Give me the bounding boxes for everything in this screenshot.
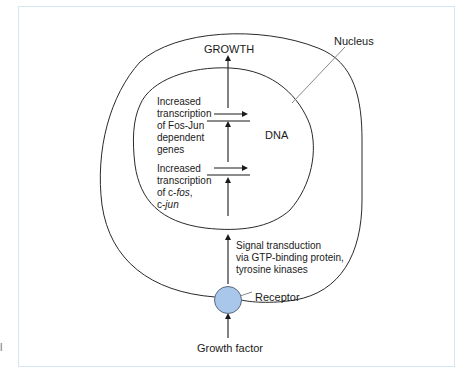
text-fragment: , (190, 187, 193, 198)
growth-factor-label: Growth factor (197, 342, 263, 354)
cfos-cjun-transcription-label: Increased transcription of c-fos, c-jun (157, 163, 211, 211)
signal-transduction-label: Signal transduction via GTP-binding prot… (236, 240, 344, 276)
text-line: Increased (157, 163, 211, 175)
text-line: dependent (157, 132, 211, 144)
stray-mark: l (0, 341, 2, 353)
text-line: Signal transduction (236, 240, 344, 252)
gene-name-fos: fos (176, 187, 189, 198)
receptor-label: Receptor (255, 291, 300, 303)
nucleus-leader-line (292, 47, 345, 103)
receptor-icon (215, 287, 242, 314)
cell-signaling-diagram (0, 0, 466, 380)
text-line: transcription (157, 175, 211, 187)
text-fragment: of c- (157, 187, 176, 198)
text-line: genes (157, 144, 211, 156)
text-line: Increased (157, 96, 211, 108)
text-line: of Fos-Jun (157, 120, 211, 132)
dna-label: DNA (265, 129, 288, 141)
text-line: c-jun (157, 199, 211, 211)
nucleus-label: Nucleus (334, 35, 374, 47)
receptor-leader-line (240, 292, 252, 296)
text-line: via GTP-binding protein, (236, 252, 344, 264)
gene-name-jun: jun (165, 199, 178, 210)
text-line: tyrosine kinases (236, 264, 344, 276)
fos-jun-transcription-label: Increased transcription of Fos-Jun depen… (157, 96, 211, 156)
growth-label: GROWTH (204, 43, 254, 55)
text-line: of c-fos, (157, 187, 211, 199)
text-line: transcription (157, 108, 211, 120)
